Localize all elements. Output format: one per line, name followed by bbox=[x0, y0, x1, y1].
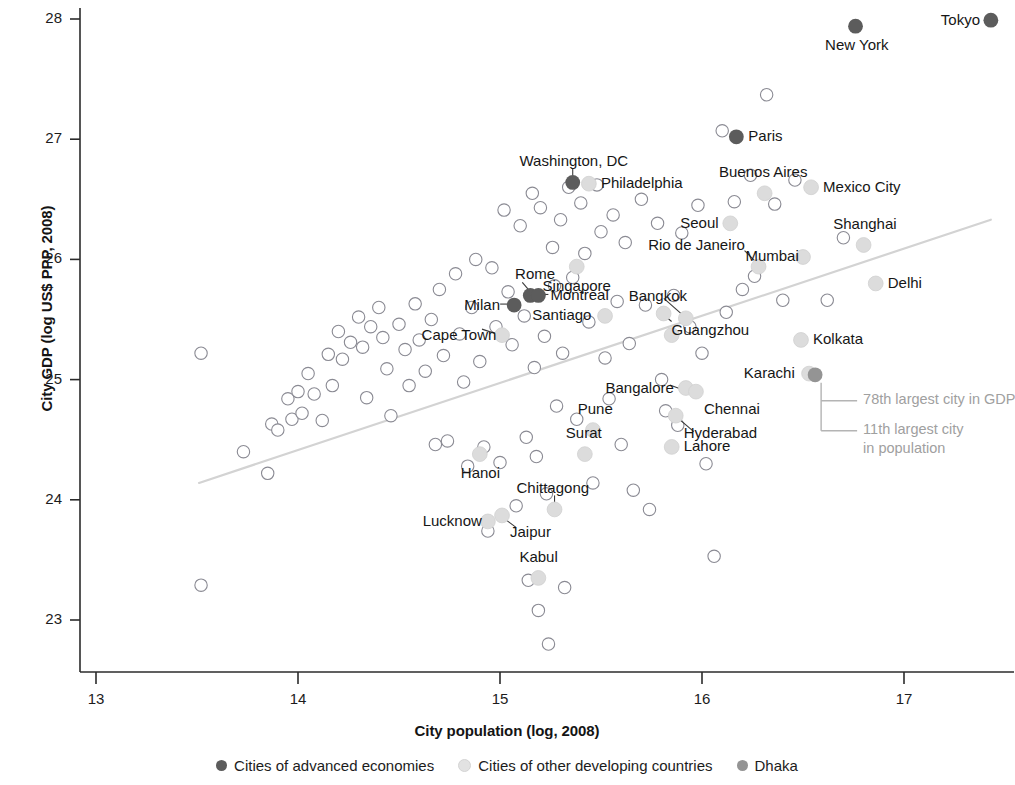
data-point bbox=[757, 186, 772, 201]
data-point bbox=[565, 175, 580, 190]
data-point bbox=[598, 308, 613, 323]
data-point bbox=[723, 216, 738, 231]
data-point-label: Lucknow bbox=[423, 513, 482, 528]
legend-label: Cities of advanced economies bbox=[234, 757, 434, 774]
data-point bbox=[577, 447, 592, 462]
data-point-label: Guangzhou bbox=[672, 322, 750, 337]
x-axis-title: City population (log, 2008) bbox=[0, 722, 1014, 739]
data-point bbox=[848, 19, 863, 34]
data-point-label: Kabul bbox=[519, 549, 557, 564]
data-point bbox=[495, 328, 510, 343]
x-tick-label: 17 bbox=[874, 690, 934, 707]
legend-label: Dhaka bbox=[755, 757, 798, 774]
data-point-label: Chittagong bbox=[517, 480, 590, 495]
data-point-label: Tokyo bbox=[941, 12, 980, 27]
chart-annotation: 11th largest city bbox=[863, 421, 963, 438]
data-point-label: Pune bbox=[578, 401, 613, 416]
data-point-label: Shanghai bbox=[833, 216, 896, 231]
chart-legend: Cities of advanced economiesCities of ot… bbox=[0, 757, 1014, 774]
data-point-label: Philadelphia bbox=[601, 175, 683, 190]
data-point-label: Mumbai bbox=[745, 248, 798, 263]
data-point bbox=[507, 298, 522, 313]
data-point bbox=[531, 571, 546, 586]
data-point bbox=[868, 276, 883, 291]
data-point-label: Surat bbox=[566, 425, 602, 440]
data-point bbox=[569, 259, 584, 274]
data-point-label: New York bbox=[825, 37, 888, 52]
data-point bbox=[808, 367, 823, 382]
plot-area bbox=[0, 0, 1014, 700]
data-point-label: Washington, DC bbox=[520, 153, 629, 168]
x-tick-label: 15 bbox=[470, 690, 530, 707]
legend-marker-icon bbox=[458, 759, 471, 772]
legend-marker-icon bbox=[216, 760, 227, 771]
y-tick-label: 24 bbox=[14, 490, 62, 507]
data-point bbox=[983, 13, 998, 28]
legend-marker-icon bbox=[737, 760, 748, 771]
annotation-leader-lines bbox=[821, 383, 857, 431]
y-tick-label: 25 bbox=[14, 370, 62, 387]
data-point bbox=[581, 176, 596, 191]
data-point-label: Kolkata bbox=[813, 331, 863, 346]
legend-entry[interactable]: Cities of other developing countries bbox=[458, 757, 712, 774]
legend-label: Cities of other developing countries bbox=[478, 757, 712, 774]
data-point-label: Santiago bbox=[532, 307, 591, 322]
data-point-label: Bangalore bbox=[605, 380, 673, 395]
data-point bbox=[856, 238, 871, 253]
data-point bbox=[472, 447, 487, 462]
data-point-label: Delhi bbox=[888, 275, 922, 290]
x-tick-label: 14 bbox=[268, 690, 328, 707]
data-point bbox=[547, 502, 562, 517]
data-point bbox=[656, 306, 671, 321]
y-tick-label: 26 bbox=[14, 249, 62, 266]
data-point-label: Buenos Aires bbox=[719, 164, 807, 179]
data-point bbox=[664, 440, 679, 455]
data-point-label: Jaipur bbox=[510, 524, 551, 539]
y-tick-label: 27 bbox=[14, 129, 62, 146]
data-point-label: Chennai bbox=[704, 401, 760, 416]
data-point bbox=[668, 408, 683, 423]
y-tick-label: 23 bbox=[14, 610, 62, 627]
legend-entry[interactable]: Cities of advanced economies bbox=[216, 757, 434, 774]
data-point-label: Seoul bbox=[680, 215, 718, 230]
data-point-label: Karachi bbox=[744, 365, 795, 380]
data-point-label: Mexico City bbox=[823, 179, 901, 194]
data-point bbox=[480, 514, 495, 529]
data-point-label: Hanoi bbox=[461, 465, 500, 480]
x-tick-label: 16 bbox=[672, 690, 732, 707]
data-point-label: Singapore bbox=[543, 278, 611, 293]
x-tick-label: 13 bbox=[66, 690, 126, 707]
legend-entry[interactable]: Dhaka bbox=[737, 757, 798, 774]
chart-annotation: 78th largest city in GDP bbox=[863, 391, 1015, 408]
data-point-label: Lahore bbox=[684, 438, 731, 453]
data-point-label: Rio de Janeiro bbox=[648, 237, 745, 252]
data-point bbox=[689, 384, 704, 399]
y-tick-label: 28 bbox=[14, 9, 62, 26]
data-point bbox=[729, 129, 744, 144]
data-point-label: Milan bbox=[464, 297, 500, 312]
data-point bbox=[804, 180, 819, 195]
chart-annotation: in population bbox=[863, 440, 945, 457]
data-point-label: Paris bbox=[748, 128, 782, 143]
data-point-label: Bangkok bbox=[629, 288, 687, 303]
data-point-label: Cape Town bbox=[422, 327, 497, 342]
data-point bbox=[794, 333, 809, 348]
data-point bbox=[495, 508, 510, 523]
